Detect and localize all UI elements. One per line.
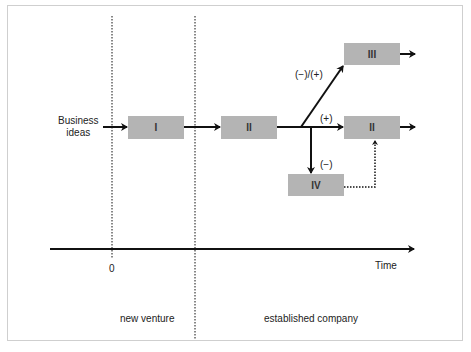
box-4: IV [288, 174, 344, 196]
branch-label-down: (−) [320, 159, 333, 170]
time-label: Time [375, 260, 397, 271]
branch-label-up: (−)/(+) [295, 69, 323, 80]
input-label: Business ideas [58, 115, 99, 139]
branch-label-straight: (+) [320, 113, 333, 124]
box-3: III [344, 43, 400, 65]
phase-established-company: established company [264, 313, 358, 324]
box-2-right: II [344, 116, 400, 139]
diagram-lines [0, 0, 471, 352]
feedback-arrow [344, 141, 375, 187]
phase-new-venture: new venture [120, 313, 174, 324]
box-1: I [128, 116, 184, 139]
box-2-left: II [221, 116, 277, 139]
origin-label: 0 [109, 263, 115, 274]
